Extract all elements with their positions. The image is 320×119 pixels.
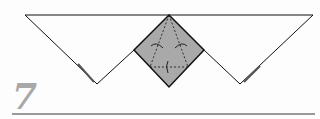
- left-flap-edge: [78, 64, 94, 82]
- step-number: 7: [12, 78, 37, 114]
- right-flap: [204, 15, 313, 84]
- divider-rule: [12, 113, 315, 115]
- right-flap-edge: [244, 66, 260, 82]
- fold-diagram-graphic: [0, 0, 320, 119]
- center-diamond: [134, 15, 204, 87]
- left-flap: [25, 15, 134, 84]
- origami-diagram: 7: [0, 0, 320, 119]
